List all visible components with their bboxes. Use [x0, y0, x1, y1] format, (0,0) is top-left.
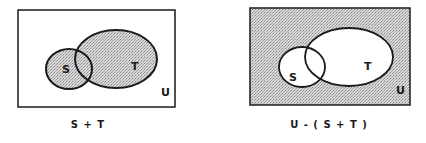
- set-t-label-right: T: [364, 60, 372, 73]
- universe-label-right: U: [396, 84, 405, 97]
- set-s-label-left: S: [62, 63, 70, 76]
- set-s-label-right: S: [289, 71, 297, 84]
- set-t-label-left: T: [131, 60, 139, 73]
- caption-left: S + T: [71, 119, 105, 130]
- venn-diagrams: S T U S + T S T U U - ( S + T ): [0, 0, 426, 143]
- universe-label-left: U: [161, 86, 170, 99]
- venn-left: S T U S + T: [18, 10, 175, 130]
- venn-right: S T U U - ( S + T ): [250, 8, 410, 130]
- caption-right: U - ( S + T ): [290, 119, 368, 130]
